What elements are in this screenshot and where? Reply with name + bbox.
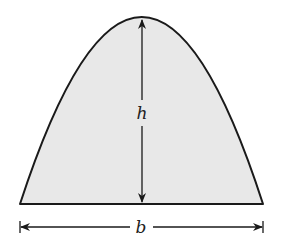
height-label: h <box>137 103 148 123</box>
parabola-diagram: h b <box>0 0 281 241</box>
base-label: b <box>136 217 147 237</box>
